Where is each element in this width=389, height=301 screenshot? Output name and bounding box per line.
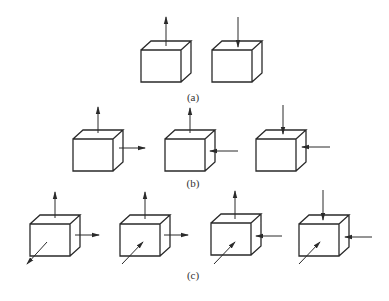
- cube-c-1: [30, 215, 80, 256]
- caption-c: (c): [187, 269, 199, 281]
- caption-b: (b): [187, 177, 200, 189]
- cube-a-1: [141, 41, 191, 82]
- cube-c-3: [211, 214, 261, 255]
- cube-b-1: [73, 130, 123, 171]
- force-cube-diagram: [0, 0, 389, 301]
- cube-c-2: [120, 215, 170, 256]
- cubes-layer: [30, 41, 349, 256]
- arrow-diag-in-icon: [214, 242, 235, 264]
- cube-b-3: [256, 130, 306, 171]
- cube-c-4: [299, 215, 349, 256]
- cube-b-2: [165, 130, 215, 171]
- force-arrows-layer: [27, 17, 372, 264]
- arrow-diag-in-icon: [299, 242, 320, 264]
- cube-a-2: [212, 41, 262, 82]
- arrow-diag-in-icon: [122, 242, 143, 264]
- caption-a: (a): [187, 91, 199, 103]
